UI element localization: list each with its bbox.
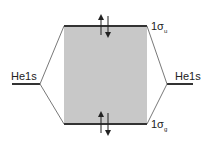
shaded-region [64, 26, 147, 124]
connector [147, 26, 167, 84]
antibonding-label: 1σu [151, 20, 167, 34]
right-ao-label: He1s [175, 70, 201, 82]
connector [40, 84, 64, 124]
connector [40, 26, 64, 84]
mo-diagram: He1s He1s 1σu 1σg [0, 0, 211, 149]
bonding-label: 1σg [151, 118, 167, 132]
left-ao-label: He1s [11, 70, 37, 82]
